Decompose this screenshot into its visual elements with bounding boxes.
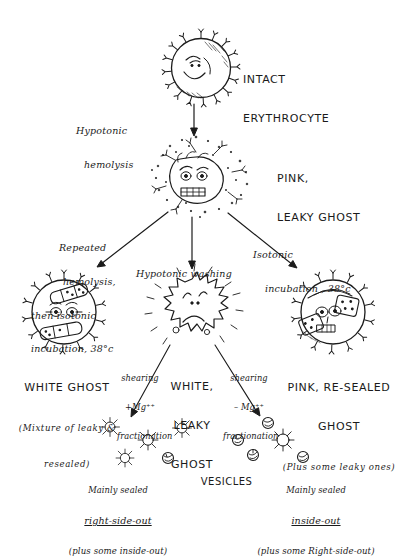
intact-line1: INTACT xyxy=(243,74,329,87)
shear-plus-line3: fractionation xyxy=(117,432,163,442)
pink-leaky-line1: PINK, xyxy=(277,173,360,186)
repeated-line4: incubation, 38°c xyxy=(31,343,116,354)
label-isotonic-incubation: Isotonic incubation , 38°c xyxy=(253,227,351,317)
pink-leaky-ghost-figure xyxy=(151,136,247,217)
rso-line1: Mainly sealed xyxy=(48,486,188,496)
shear-minus-line1: shearing xyxy=(223,374,275,384)
shear-minus-line3: fractionation xyxy=(223,432,275,442)
label-hypotonic-hemolysis: Hypotonic hemolysis xyxy=(76,103,133,193)
repeated-line3: then isotonic xyxy=(31,310,116,321)
isotonic-line2: incubation , 38°c xyxy=(265,283,351,294)
shear-plus-line1: shearing xyxy=(117,374,163,384)
rso-line2: right-side-out xyxy=(48,515,188,526)
arrow-hypotonic-hemolysis xyxy=(191,104,198,136)
white-leaky-line2: LEAKY xyxy=(161,420,223,433)
iso-line2: inside-out xyxy=(236,515,396,526)
label-repeated-hemolysis: Repeated hemolysis, then isotonic incuba… xyxy=(31,220,116,377)
iso-note: (plus some Right-side-out) xyxy=(236,546,396,556)
label-mainly-sealed-iso: Mainly sealed inside-out (plus some Righ… xyxy=(236,466,396,560)
shear-plus-line2: +Mg⁺⁺ xyxy=(117,403,163,413)
repeated-line2: hemolysis, xyxy=(63,276,116,287)
intact-erythrocyte-figure xyxy=(162,29,240,107)
shear-minus-line2: – Mg⁺⁺ xyxy=(223,403,275,413)
white-ghost-note1: (Mixture of leaky & xyxy=(8,423,126,433)
rso-note: (plus some inside-out) xyxy=(48,546,188,556)
iso-line1: Mainly sealed xyxy=(236,486,396,496)
repeated-line1: Repeated xyxy=(59,242,116,253)
label-hypotonic-washing: Hypotonic washing xyxy=(136,246,232,302)
pink-leaky-line2: LEAKY GHOST xyxy=(277,212,360,225)
label-shearing-plus-mg: shearing +Mg⁺⁺ fractionation xyxy=(117,354,163,462)
label-intact-erythrocyte: INTACT ERYTHROCYTE xyxy=(243,48,329,152)
intact-line2: ERYTHROCYTE xyxy=(243,113,329,126)
hemolysis-line2: hemolysis xyxy=(84,159,133,170)
hemolysis-line1: Hypotonic xyxy=(76,125,133,136)
isotonic-line1: Isotonic xyxy=(253,249,351,260)
pink-resealed-line1: PINK, RE-SEALED xyxy=(272,382,406,395)
washing-line1: Hypotonic washing xyxy=(136,268,232,279)
white-ghost-line1: WHITE GHOST xyxy=(8,382,126,395)
label-shearing-minus-mg: shearing – Mg⁺⁺ fractionation xyxy=(223,354,275,462)
label-mainly-sealed-rso: Mainly sealed right-side-out (plus some … xyxy=(48,466,188,560)
white-leaky-line1: WHITE, xyxy=(161,381,223,394)
pink-resealed-line2: GHOST xyxy=(272,421,406,434)
